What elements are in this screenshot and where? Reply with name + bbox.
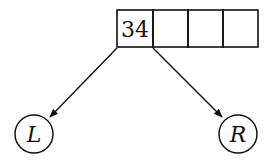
right-child-arrow bbox=[153, 48, 222, 117]
array-cell-2 bbox=[188, 10, 223, 47]
left-child-label: L bbox=[26, 122, 42, 147]
array-cell-0-value: 34 bbox=[121, 17, 149, 42]
left-child-node: L bbox=[15, 115, 53, 153]
array-cell-1 bbox=[153, 10, 188, 47]
node-array: 34 bbox=[117, 10, 258, 47]
array-cell-3 bbox=[223, 10, 258, 47]
left-child-arrow bbox=[50, 48, 117, 117]
diagram-canvas: 34 L R bbox=[0, 0, 279, 163]
right-child-label: R bbox=[229, 122, 247, 147]
right-child-node: R bbox=[219, 115, 257, 153]
